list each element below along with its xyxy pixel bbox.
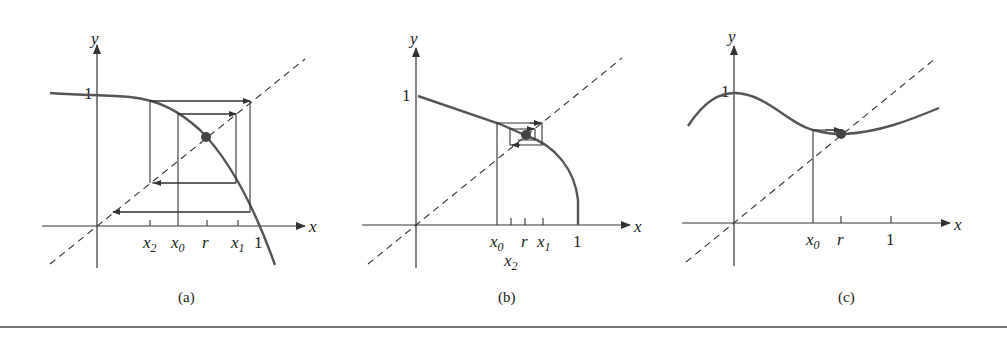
cobweb-path — [150, 101, 250, 183]
svg-text:x1: x1 — [230, 233, 245, 255]
x-tick-labels: x2 x0 r x1 1 — [142, 233, 263, 255]
cobweb-path — [113, 101, 250, 212]
svg-text:r: r — [202, 233, 209, 252]
panel-caption-c: (c) — [838, 289, 855, 306]
svg-text:1: 1 — [573, 232, 582, 251]
bottom-rule — [0, 326, 1007, 328]
x-axis-label: x — [633, 217, 642, 236]
cobweb-path — [497, 123, 542, 225]
svg-text:1: 1 — [254, 233, 263, 252]
svg-text:r: r — [837, 230, 844, 249]
panel-b: x y 1 x0 r x1 1 x2 (b) — [362, 29, 642, 306]
panel-c: x y 1 x0 r 1 (c) — [682, 27, 962, 306]
fixed-point-marker — [836, 129, 846, 139]
y-tick-label-1: 1 — [721, 82, 730, 101]
y-tick-label-1: 1 — [402, 86, 411, 105]
svg-text:x2: x2 — [142, 233, 157, 255]
svg-text:x0: x0 — [489, 232, 504, 254]
y-axis-label: y — [726, 27, 736, 46]
cobweb-path — [813, 130, 840, 223]
svg-text:x2: x2 — [503, 251, 518, 273]
panel-a: x y 1 x2 x0 r x1 1 (a) — [42, 29, 317, 306]
y-tick-label-1: 1 — [84, 84, 93, 103]
fixed-point-marker — [201, 132, 211, 142]
x-tick-labels: x0 r x1 1 x2 — [489, 232, 582, 273]
function-curve — [50, 93, 275, 265]
svg-text:x0: x0 — [805, 230, 820, 252]
x-axis-label: x — [953, 215, 962, 234]
svg-text:x0: x0 — [170, 233, 185, 255]
x-axis-label: x — [308, 217, 317, 236]
fixed-point-marker — [521, 130, 531, 140]
panel-caption-b: (b) — [498, 289, 516, 306]
svg-text:r: r — [521, 232, 528, 251]
cobweb-path — [178, 114, 236, 226]
figure-canvas: x y 1 x2 x0 r x1 1 (a) x — [0, 0, 1007, 337]
y-axis-label: y — [89, 29, 99, 48]
svg-text:1: 1 — [886, 230, 895, 249]
x-tick-labels: x0 r 1 — [805, 230, 895, 252]
y-axis-label: y — [408, 29, 418, 48]
svg-text:x1: x1 — [536, 232, 551, 254]
panel-caption-a: (a) — [178, 289, 195, 306]
function-curve — [418, 96, 578, 225]
